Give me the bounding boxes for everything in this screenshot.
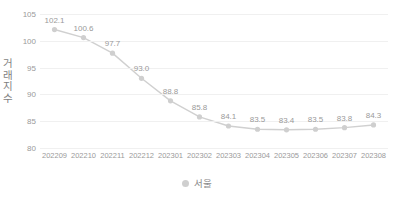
x-axis-tick: 202307 — [332, 151, 357, 160]
data-point-marker[interactable] — [255, 127, 260, 132]
data-point-marker[interactable] — [284, 127, 289, 132]
x-axis-tick: 202212 — [129, 151, 154, 160]
legend-dot-icon — [182, 180, 189, 187]
data-point-marker[interactable] — [139, 76, 144, 81]
gridline — [40, 94, 388, 95]
data-point-label: 83.5 — [308, 115, 324, 124]
line-chart: 거래지수 10510095908580 102.1100.697.793.088… — [0, 0, 394, 198]
plot-area: 102.1100.697.793.088.885.884.183.583.483… — [40, 14, 388, 148]
y-axis-tick-labels: 10510095908580 — [14, 0, 36, 198]
series-seoul — [40, 14, 388, 148]
data-point-label: 84.3 — [366, 111, 382, 120]
legend-item-label[interactable]: 서울 — [194, 176, 212, 190]
data-point-marker[interactable] — [110, 51, 115, 56]
data-point-marker[interactable] — [226, 123, 231, 128]
x-axis-tick: 202306 — [303, 151, 328, 160]
y-axis-tick: 90 — [14, 90, 36, 99]
y-axis-tick: 95 — [14, 63, 36, 72]
data-point-label: 97.7 — [105, 39, 121, 48]
x-axis-tick: 202304 — [245, 151, 270, 160]
x-axis-tick: 202305 — [274, 151, 299, 160]
data-point-marker[interactable] — [168, 98, 173, 103]
x-axis-tick: 202301 — [158, 151, 183, 160]
data-point-label: 93.0 — [134, 64, 150, 73]
series-line — [55, 30, 374, 130]
data-point-marker[interactable] — [52, 27, 57, 32]
x-axis-tick: 202210 — [71, 151, 96, 160]
x-axis-tick: 202209 — [42, 151, 67, 160]
data-point-marker[interactable] — [81, 35, 86, 40]
x-axis-tick: 202302 — [187, 151, 212, 160]
y-axis-tick: 85 — [14, 117, 36, 126]
data-point-label: 83.4 — [279, 116, 295, 125]
data-point-marker[interactable] — [197, 114, 202, 119]
gridline — [40, 68, 388, 69]
data-point-marker[interactable] — [342, 125, 347, 130]
y-axis-tick: 80 — [14, 144, 36, 153]
data-point-label: 88.8 — [163, 87, 179, 96]
chart-legend: 서울 — [0, 176, 394, 190]
data-point-label: 84.1 — [221, 112, 237, 121]
data-point-label: 83.8 — [337, 114, 353, 123]
x-axis-tick: 202211 — [100, 151, 124, 160]
data-point-marker[interactable] — [371, 122, 376, 127]
y-axis-title: 거래지수 — [1, 58, 15, 104]
x-axis-tick-labels: 2022092022102022112022122023012023022023… — [40, 151, 388, 165]
data-point-label: 83.5 — [250, 115, 266, 124]
data-point-label: 85.8 — [192, 103, 208, 112]
x-axis-tick: 202308 — [361, 151, 386, 160]
data-point-label: 102.1 — [44, 16, 64, 25]
x-axis-tick: 202303 — [216, 151, 241, 160]
y-axis-tick: 105 — [14, 10, 36, 19]
y-axis-tick: 100 — [14, 36, 36, 45]
data-point-label: 100.6 — [73, 24, 93, 33]
gridline — [40, 148, 388, 149]
data-point-marker[interactable] — [313, 127, 318, 132]
gridline — [40, 41, 388, 42]
gridline — [40, 14, 388, 15]
